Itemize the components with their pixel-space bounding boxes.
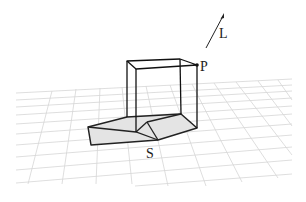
light-label: L <box>219 26 228 41</box>
corner-point-marker <box>195 63 199 67</box>
shadow-label: S <box>146 146 154 161</box>
arrowhead-icon <box>221 13 225 19</box>
diagram-canvas: P L S <box>0 0 306 202</box>
point-label: P <box>200 59 208 74</box>
cast-shadow <box>88 114 197 145</box>
